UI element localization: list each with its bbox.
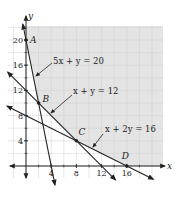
vertex-label: C	[78, 127, 85, 137]
x-tick-label: 16	[122, 169, 132, 178]
vertex-point	[24, 38, 28, 42]
vertex-point	[75, 139, 79, 143]
vertex-label: D	[121, 151, 129, 161]
vertex-point	[37, 101, 41, 105]
y-tick-label: 12	[13, 86, 23, 95]
vertex-point	[125, 164, 129, 168]
vertex-label: A	[29, 35, 37, 45]
y-tick-label: 4	[18, 137, 23, 146]
equation-label: x + y = 12	[73, 86, 118, 96]
y-tick-label: 16	[13, 61, 23, 70]
equation-label: x + 2y = 16	[105, 124, 156, 134]
vertex-label: B	[42, 94, 50, 104]
x-axis-label: x	[167, 161, 172, 171]
x-tick-label: 12	[97, 169, 107, 178]
y-axis-label: y	[27, 11, 34, 21]
feasible-region-graph: xy48121648121620 ABCD 5x + y = 20x + y =…	[0, 0, 179, 199]
y-tick-label: 20	[13, 36, 23, 45]
equation-label: 5x + y = 20	[53, 56, 104, 66]
x-tick-label: 8	[74, 169, 79, 178]
